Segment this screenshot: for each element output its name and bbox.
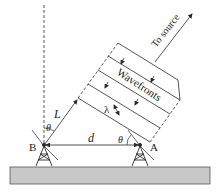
theta-B-label: θ [46,122,51,133]
theta-A-arc [127,135,131,145]
wavefronts-group [78,43,180,142]
theta-A-label: θ [118,134,123,145]
lambda-label: λ [104,103,110,115]
to-source-label: To source [149,11,182,49]
baseline-d-label: d [88,131,95,145]
lambda-arrow [114,105,119,115]
ground [10,167,210,184]
path-L-label: L [53,107,61,121]
interferometer-diagram: λ Wavefronts L θ d θ B A [0,0,220,193]
antenna-A-label: A [150,141,158,153]
antenna-B-label: B [29,141,36,153]
